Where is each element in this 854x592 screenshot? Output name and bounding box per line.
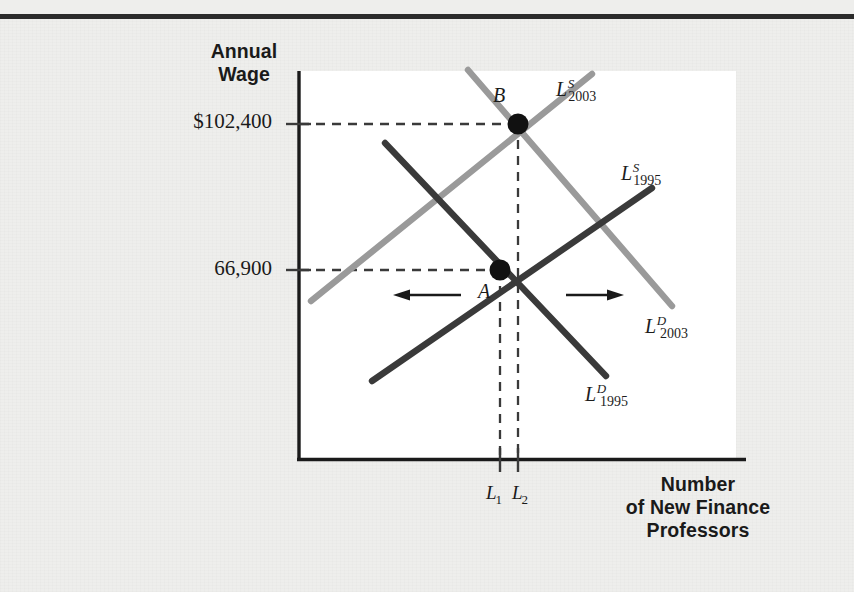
curve-label-demand-2003-sub: 2003 (660, 326, 688, 341)
x-axis-title-line-1: Number (588, 473, 808, 496)
x-tick-label-l2-base: L (512, 482, 523, 503)
curve-label-demand-2003-base: L (645, 315, 656, 337)
curve-supply-2003 (311, 74, 592, 301)
x-tick-label-l2-sub: 2 (522, 492, 529, 507)
x-tick-label-l1: L1 (486, 483, 502, 502)
curve-demand-1995 (385, 143, 606, 376)
y-axis-title-line-2: Wage (181, 63, 307, 86)
equilibrium-point-b (508, 114, 529, 135)
y-tick-label-low: 66,900 (92, 256, 272, 281)
y-tick-label-high: $102,400 (92, 109, 272, 134)
figure-root: Annual Wage Number of New Finance Profes… (0, 0, 854, 592)
curve-label-supply-2003-base: L (556, 78, 567, 100)
curve-label-demand-1995: LD1995 (585, 384, 628, 404)
y-axis-title: Annual Wage (181, 40, 307, 86)
curve-label-supply-1995-sub: 1995 (633, 173, 661, 188)
x-axis-title: Number of New Finance Professors (588, 473, 808, 542)
curve-label-supply-1995: LS1995 (621, 163, 661, 183)
curve-label-supply-2003: LS2003 (556, 79, 596, 99)
y-axis-title-line-1: Annual (181, 40, 307, 63)
curve-label-supply-2003-sub: 2003 (568, 89, 596, 104)
x-tick-label-l2: L2 (512, 483, 528, 502)
equilibrium-label-a: A (478, 280, 490, 303)
equilibrium-label-b: B (493, 84, 505, 107)
curve-label-demand-2003: LD2003 (645, 316, 688, 336)
shift-arrow-left-icon (393, 290, 461, 301)
curve-label-demand-1995-base: L (585, 383, 596, 405)
x-axis-title-line-3: Professors (588, 519, 808, 542)
shift-arrow-right-icon (566, 290, 624, 301)
x-tick-label-l1-sub: 1 (496, 492, 503, 507)
equilibrium-point-a (490, 260, 511, 281)
curve-label-supply-1995-base: L (621, 162, 632, 184)
curve-label-demand-1995-sub: 1995 (600, 394, 628, 409)
x-axis-title-line-2: of New Finance (588, 496, 808, 519)
x-tick-label-l1-base: L (486, 482, 497, 503)
